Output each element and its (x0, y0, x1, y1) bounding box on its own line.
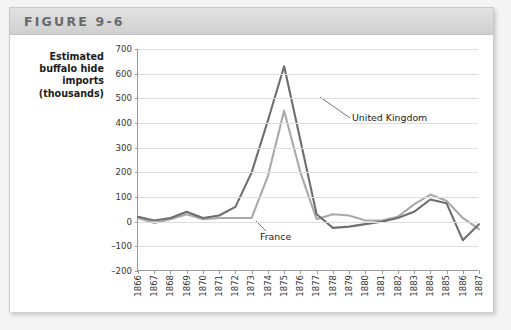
x-tick-label: 1869 (182, 275, 192, 297)
annotation-leader-line (320, 97, 350, 118)
y-tick-mark (135, 172, 138, 173)
x-tick-label: 1874 (263, 275, 273, 297)
figure-header-band: FIGURE 9-6 (10, 8, 493, 35)
y-axis-title-line: buffalo hide (16, 63, 104, 75)
x-tick-label: 1870 (198, 275, 208, 297)
y-axis-title-line: (thousands) (16, 88, 104, 100)
plot-area: United Kingdom France (137, 49, 478, 271)
y-tick-label: 100 (106, 192, 132, 202)
series-line-france (138, 111, 479, 229)
figure-page: FIGURE 9-6 Estimatedbuffalo hideimports(… (0, 0, 511, 330)
x-tick-label: 1883 (409, 275, 419, 297)
plot-wrapper: 7006005004003002001000–100–200 United Ki… (106, 49, 478, 307)
y-tick-mark (135, 197, 138, 198)
x-tick-label: 1866 (133, 275, 143, 297)
gridline (138, 98, 478, 99)
y-tick-label: 400 (106, 118, 132, 128)
y-tick-label: 300 (106, 143, 132, 153)
x-tick-label: 1880 (360, 275, 370, 297)
gridline (138, 123, 478, 124)
x-tick-label: 1884 (425, 275, 435, 297)
x-tick-label: 1873 (246, 275, 256, 297)
x-tick-label: 1875 (279, 275, 289, 297)
gridline (138, 74, 478, 75)
figure-title: FIGURE 9-6 (24, 14, 125, 29)
y-axis-title-line: imports (16, 75, 104, 87)
gridline (138, 172, 478, 173)
y-tick-label: 600 (106, 69, 132, 79)
figure-panel: FIGURE 9-6 Estimatedbuffalo hideimports(… (9, 7, 494, 312)
x-tick-label: 1877 (311, 275, 321, 297)
y-tick-mark (135, 222, 138, 223)
x-axis-tick-labels: 1866186718681869187018711872187318741875… (137, 273, 478, 317)
x-tick-label: 1879 (344, 275, 354, 297)
gridline (138, 246, 478, 247)
x-tick-label: 1876 (295, 275, 305, 297)
y-tick-label: –100 (106, 241, 132, 251)
x-tick-label: 1878 (328, 275, 338, 297)
gridline (138, 148, 478, 149)
chart-card: Estimatedbuffalo hideimports(thousands) … (10, 35, 493, 312)
y-tick-label: 700 (106, 44, 132, 54)
y-tick-mark (135, 49, 138, 50)
y-tick-label: 200 (106, 167, 132, 177)
y-tick-mark (135, 74, 138, 75)
x-tick-label: 1867 (149, 275, 159, 297)
y-tick-mark (135, 98, 138, 99)
x-tick-label: 1881 (376, 275, 386, 297)
y-axis-title-line: Estimated (16, 51, 104, 63)
series-label-france: France (260, 231, 291, 242)
x-tick-label: 1885 (441, 275, 451, 297)
y-tick-mark (135, 148, 138, 149)
gridline (138, 222, 478, 223)
x-tick-mark (479, 270, 480, 274)
y-tick-mark (135, 123, 138, 124)
gridline (138, 49, 478, 50)
y-axis-title: Estimatedbuffalo hideimports(thousands) (16, 51, 104, 100)
y-tick-label: 0 (106, 217, 132, 227)
x-tick-label: 1887 (474, 275, 484, 297)
x-tick-label: 1872 (230, 275, 240, 297)
x-tick-label: 1886 (458, 275, 468, 297)
x-tick-label: 1882 (393, 275, 403, 297)
gridline (138, 197, 478, 198)
y-axis-tick-labels: 7006005004003002001000–100–200 (106, 49, 132, 271)
series-label-united-kingdom: United Kingdom (352, 112, 427, 123)
series-lines (138, 49, 479, 271)
x-tick-label: 1871 (214, 275, 224, 297)
y-tick-label: 500 (106, 93, 132, 103)
y-tick-mark (135, 246, 138, 247)
x-tick-label: 1868 (165, 275, 175, 297)
y-tick-label: –200 (106, 266, 132, 276)
